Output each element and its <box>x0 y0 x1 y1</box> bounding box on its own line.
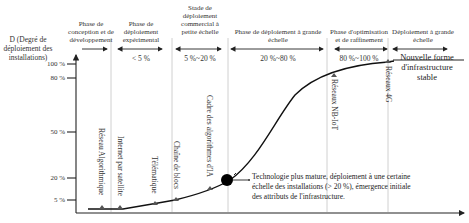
y-tick-100: 100 % <box>29 60 65 68</box>
y-axis-label: D (Degré de déploiement des installation… <box>2 35 54 62</box>
phase-5-title: Phase d'optimisation et de raffinement <box>328 28 390 44</box>
milestone-telematics: Télématique <box>150 156 159 193</box>
milestone-ai-framework: Cadre des algorithmes d'IA <box>205 95 214 177</box>
y-tick-80: 80 % <box>29 74 65 82</box>
phase-5-range: 80 %~100 % <box>328 54 390 63</box>
phase-4-title: Phase de déploiement à grande échelle <box>232 28 324 44</box>
phase-6-title: Déploiement à grande échelle <box>390 28 456 44</box>
phase-1-title: Phase de conception et de développement <box>68 20 114 44</box>
phase-3-title: Stade de déploiement commercial à petite… <box>176 4 224 36</box>
milestone-4g: Réseaux 4G <box>384 66 393 102</box>
milestone-nb-iot: Réseaux NB-IoT <box>330 79 339 130</box>
y-tick-5: 5 % <box>29 196 65 204</box>
y-tick-50: 50 % <box>29 128 65 136</box>
y-tick-20: 20 % <box>29 174 65 182</box>
key-point-dot <box>221 174 233 186</box>
milestone-algorithmic-network: Réseau Algorithmique <box>97 128 106 195</box>
phase-2-range: < 5 % <box>118 54 164 63</box>
milestone-blockchain: Chaîne de blocs <box>172 141 181 189</box>
phase-4-range: 20 %~80 % <box>232 54 324 63</box>
milestone-satellite-internet: Internet par satellite <box>116 136 125 196</box>
key-point-annotation: Technologie plus mature, déploiement à u… <box>252 172 422 202</box>
phase-2-title: Phase de déploiement expérimental <box>118 20 164 44</box>
phase-3-range: 5 %~20 % <box>176 54 224 63</box>
end-state-label: Nouvelle forme d'infrastructure stable <box>392 52 462 82</box>
